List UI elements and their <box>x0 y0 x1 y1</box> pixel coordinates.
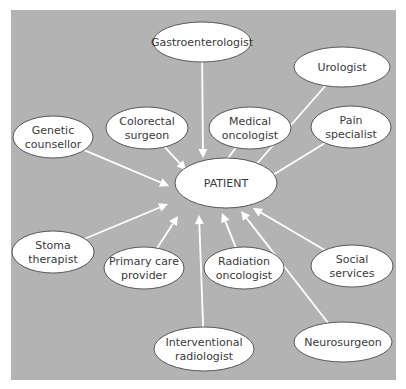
node-colorectal-surgeon: Colorectalsurgeon <box>106 107 188 149</box>
node-radiation-oncologist: Radiationoncologist <box>204 247 284 289</box>
arrow-line <box>202 62 203 149</box>
node-label: Primary care <box>109 255 179 268</box>
node-urologist: Urologist <box>294 47 390 87</box>
node-ellipse <box>13 116 93 158</box>
node-label: Pain <box>340 114 363 127</box>
node-ellipse <box>311 106 391 148</box>
node-ellipse <box>12 231 94 273</box>
node-medical-oncologist: Medicaloncologist <box>209 107 291 149</box>
node-label: Social <box>336 253 369 266</box>
node-label: surgeon <box>125 129 170 142</box>
node-label: Urologist <box>318 61 368 74</box>
node-primary-care-provider: Primary careprovider <box>104 247 184 289</box>
node-ellipse <box>209 107 291 149</box>
node-genetic-counsellor: Geneticcounsellor <box>13 116 93 158</box>
node-patient: PATIENT <box>175 158 277 208</box>
node-label: therapist <box>28 253 78 266</box>
node-label: oncologist <box>222 129 279 142</box>
node-ellipse <box>104 247 184 289</box>
node-ellipse <box>106 107 188 149</box>
node-label: provider <box>121 269 167 282</box>
node-label: services <box>329 267 374 280</box>
node-ellipse <box>311 245 393 287</box>
node-stoma-therapist: Stomatherapist <box>12 231 94 273</box>
node-label: specialist <box>325 128 377 141</box>
node-interventional-radiologist: Interventionalradiologist <box>154 327 254 371</box>
node-label: Radiation <box>218 255 270 268</box>
node-pain-specialist: Painspecialist <box>311 106 391 148</box>
node-label: Neurosurgeon <box>304 336 381 349</box>
node-label: Gastroenterologist <box>151 36 254 49</box>
care-team-diagram: GastroenterologistUrologistColorectalsur… <box>0 0 406 389</box>
node-label: counsellor <box>25 138 82 151</box>
node-label: Stoma <box>35 239 70 252</box>
node-ellipse <box>204 247 284 289</box>
node-label: PATIENT <box>204 177 249 190</box>
node-neurosurgeon: Neurosurgeon <box>294 322 392 362</box>
node-label: Genetic <box>32 124 74 137</box>
node-label: oncologist <box>216 269 273 282</box>
node-label: Colorectal <box>119 115 174 128</box>
node-label: Interventional <box>166 336 243 349</box>
node-social-services: Socialservices <box>311 245 393 287</box>
node-label: Medical <box>229 115 271 128</box>
node-ellipse <box>154 327 254 371</box>
node-label: radiologist <box>175 350 234 363</box>
